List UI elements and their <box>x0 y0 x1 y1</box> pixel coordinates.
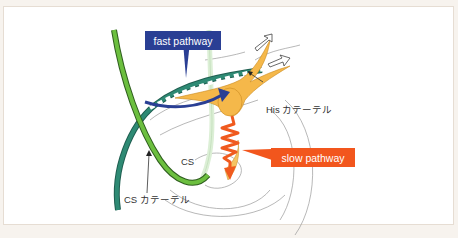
cs-label: CS <box>181 156 194 167</box>
slow-pathway-callout: slow pathway <box>242 148 355 167</box>
pale-catheter <box>202 30 212 180</box>
cs-catheter-label: CS カテーテル <box>124 194 190 205</box>
slow-pathway-label: slow pathway <box>281 152 345 164</box>
his-catheter-label: His カテーテル <box>266 104 332 115</box>
fast-pathway-label: fast pathway <box>154 35 214 47</box>
av-node-diagram: fast pathway slow pathway His カテーテル CS C… <box>0 0 458 238</box>
